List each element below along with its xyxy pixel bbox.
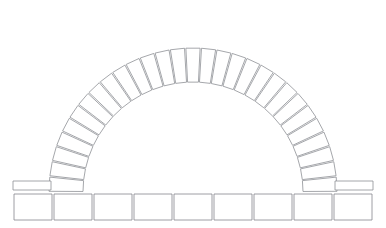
base-block (214, 194, 252, 220)
base-block (14, 194, 52, 220)
arch-diagram (0, 0, 386, 228)
base-block (334, 194, 372, 220)
arch-drawing-canvas (0, 0, 386, 228)
base-block (54, 194, 92, 220)
base-block (134, 194, 172, 220)
voussoir-block (186, 48, 200, 82)
base-block (174, 194, 212, 220)
impost-block (13, 181, 51, 190)
impost-block (335, 181, 373, 190)
base-block (254, 194, 292, 220)
base-block (294, 194, 332, 220)
arch-ring-voussoirs (49, 48, 337, 191)
base-block (94, 194, 132, 220)
base-course (14, 194, 372, 220)
